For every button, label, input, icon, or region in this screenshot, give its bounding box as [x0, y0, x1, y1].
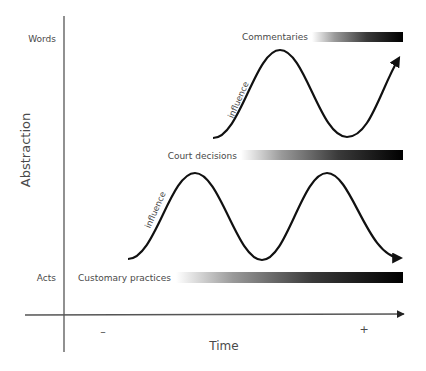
influence-wave-upper: influence [213, 50, 399, 138]
x-axis-label: Time [208, 339, 238, 353]
influence-wave-lower: influence [128, 173, 401, 260]
wave-label-lower: influence [143, 190, 168, 230]
layer-label-commentaries: Commentaries [242, 32, 308, 42]
layer-court-decisions: Court decisions [168, 150, 403, 161]
gradient-bar-court-decisions [241, 150, 403, 160]
gradient-bar-customary-practices [176, 272, 403, 283]
y-axis-label: Abstraction [18, 113, 33, 187]
y-tick-acts: Acts [37, 273, 56, 283]
y-tick-words: Words [28, 34, 56, 44]
gradient-bar-commentaries [312, 32, 403, 42]
layer-commentaries: Commentaries [242, 32, 403, 42]
x-axis [25, 314, 404, 315]
wave-curve-lower [128, 173, 401, 260]
diagram-canvas: Abstraction Words Acts Time – + Commenta… [0, 0, 426, 371]
layer-label-court-decisions: Court decisions [168, 151, 238, 161]
x-tick-minus: – [100, 325, 106, 338]
layer-customary-practices: Customary practices [78, 272, 403, 283]
layer-label-customary-practices: Customary practices [78, 273, 171, 283]
x-tick-plus: + [359, 323, 368, 336]
